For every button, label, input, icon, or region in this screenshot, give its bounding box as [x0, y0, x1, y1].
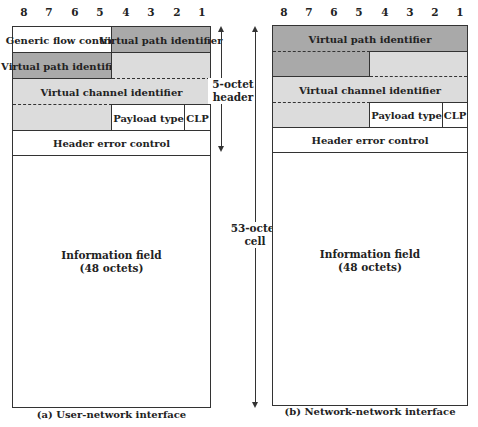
field-payload-type: Payload type: [112, 105, 185, 131]
header-label-line1: 5-octet: [208, 78, 258, 91]
divider: [370, 51, 467, 52]
dashed-divider: [13, 104, 112, 105]
field-clp: CLP: [443, 103, 467, 128]
divider: [273, 76, 370, 77]
dashed-divider: [273, 102, 370, 103]
nni-caption: (b) Network-network interface: [272, 406, 468, 417]
field-vci: Virtual channel identifier: [13, 79, 210, 105]
dashed-divider: [112, 78, 210, 79]
bit-label: 6: [324, 6, 344, 18]
header-label: 5-octet header: [208, 78, 258, 104]
bit-label: 3: [400, 6, 420, 18]
info-label: Information field: [13, 249, 210, 262]
nni-cell: Virtual path identifier Virtual channel …: [272, 25, 468, 406]
divider: [112, 104, 210, 105]
arrow-down-icon: [252, 402, 258, 408]
info-label: Information field: [273, 248, 467, 261]
field-vpi-lower: Virtual path identifier: [13, 53, 112, 79]
field-vpi-upper: Virtual path identifier: [112, 27, 210, 53]
field-header-error-control: Header error control: [273, 128, 467, 153]
divider: [184, 105, 185, 131]
bit-label: 1: [450, 6, 470, 18]
divider: [273, 127, 467, 128]
divider: [111, 27, 112, 79]
cell-span-arrow: [255, 30, 256, 404]
header-label-line2: header: [208, 91, 258, 104]
bit-label: 5: [349, 6, 369, 18]
field-vci: Virtual channel identifier: [273, 77, 467, 103]
field-vpi: Virtual path identifier: [273, 26, 467, 52]
field-header-error-control: Header error control: [13, 131, 210, 156]
information-field: Information field (48 octets): [273, 248, 467, 274]
divider: [369, 103, 370, 128]
field-generic-flow-control: Generic flow control: [13, 27, 112, 53]
info-size: (48 octets): [13, 262, 210, 275]
field-vpi-lower: [273, 52, 370, 77]
dashed-divider: [273, 51, 370, 52]
field-vci-upper: [370, 52, 467, 77]
field-payload-type: Payload type: [370, 103, 443, 128]
divider: [370, 102, 467, 103]
divider: [13, 78, 112, 79]
field-clp: CLP: [185, 105, 210, 131]
arrow-down-icon: [218, 146, 224, 152]
info-size: (48 octets): [273, 261, 467, 274]
nni-bit-labels: 8 7 6 5 4 3 2 1: [0, 6, 478, 20]
bit-label: 7: [299, 6, 319, 18]
field-vci-upper: [112, 53, 210, 79]
uni-cell: Generic flow control Virtual path identi…: [12, 26, 211, 408]
field-vci-lower: [273, 103, 370, 128]
bit-label: 2: [425, 6, 445, 18]
divider: [13, 155, 210, 156]
divider: [369, 52, 370, 77]
uni-caption: (a) User-network interface: [12, 409, 211, 420]
divider: [111, 105, 112, 131]
dashed-divider: [370, 76, 467, 77]
divider: [273, 152, 467, 153]
divider: [442, 103, 443, 128]
bit-label: 8: [274, 6, 294, 18]
bit-label: 4: [375, 6, 395, 18]
information-field: Information field (48 octets): [13, 249, 210, 275]
field-vci-lower: [13, 105, 112, 131]
